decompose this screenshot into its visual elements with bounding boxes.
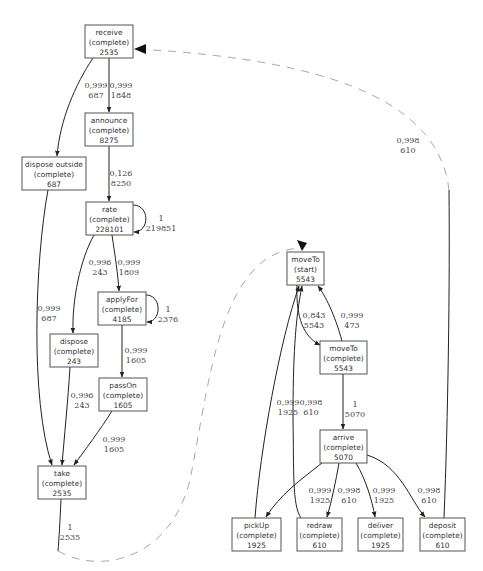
edge-dispose-outside-take[interactable] (37, 190, 52, 465)
edge-deposit-receive[interactable] (135, 49, 449, 190)
edge-dispose-take[interactable] (62, 367, 70, 465)
arrowhead-receive (134, 44, 146, 54)
nodes-layer: receive(complete)2535 announce(complete)… (22, 25, 465, 551)
edge-label-dispose-take: 0,996243 (71, 391, 94, 410)
node-redraw[interactable]: redraw(complete)610 (297, 518, 342, 551)
node-deposit[interactable]: deposit(complete)610 (420, 518, 465, 551)
node-moveTo-start[interactable]: moveTo(start)5543 (287, 252, 324, 285)
node-arrive[interactable]: arrive(complete)5070 (320, 430, 367, 463)
edge-rate-dispose[interactable] (73, 235, 94, 333)
edge-label-rate-applyFor: 0,9991809 (118, 258, 141, 277)
edge-label-take-moveTo-start: 12535 (60, 523, 80, 542)
edge-label-receive-dispose-outside: 0,999687 (85, 81, 108, 100)
edge-label-moveTo-complete-moveTo-start: 0,999473 (341, 311, 364, 330)
node-announce[interactable]: announce(complete)8275 (85, 113, 133, 146)
node-dispose-outside[interactable]: dispose outside(complete)687 (22, 157, 86, 190)
edge-applyFor-self[interactable] (146, 295, 158, 322)
edge-rate-self[interactable] (133, 205, 146, 232)
edge-label-arrive-redraw-1: 0,9991925 (309, 486, 332, 505)
edge-label-rate-dispose: 0,996243 (89, 258, 112, 277)
edge-label-arrive-redraw-2: 0,998610 (338, 486, 361, 505)
edge-label-arrive-deposit: 0,998610 (418, 486, 441, 505)
node-receive[interactable]: receive(complete)2535 (85, 25, 133, 58)
edge-take-moveTo-start[interactable] (58, 248, 302, 561)
edge-label-applyFor-passOn: 0,9991605 (125, 346, 148, 365)
edge-label-receive-announce: 0,9991848 (110, 81, 133, 100)
edge-label-passOn-take: 0,9991605 (103, 435, 126, 454)
node-take[interactable]: take(complete)2535 (38, 466, 86, 499)
edge-label-moveTo-start-moveTo-complete: 0,8435543 (303, 311, 326, 330)
node-pickUp[interactable]: pickUp(complete)1925 (232, 518, 281, 551)
node-applyFor[interactable]: applyFor(complete)4185 (98, 292, 146, 325)
edge-label-deposit-receive: 0,998610 (397, 136, 420, 155)
node-passOn[interactable]: passOn(complete)1605 (99, 378, 147, 411)
node-deliver[interactable]: deliver(complete)1925 (358, 518, 403, 551)
edge-deposit-tail (444, 190, 449, 518)
edge-label-redraw-moveTo-start: 0,998610 (300, 398, 323, 417)
edge-label-arrive-deliver: 0,9991925 (373, 486, 396, 505)
edge-label-pickUp-moveTo-start: 0,9991925 (277, 398, 300, 417)
edge-label-applyFor-self: 12376 (158, 305, 178, 324)
process-diagram: 0,999687 0,9991848 0,1268250 1219851 0,9… (0, 0, 483, 571)
edge-label-dispose-outside-take: 0,999687 (38, 304, 61, 323)
edge-take-tail (58, 499, 61, 551)
edge-label-announce-rate: 0,1268250 (110, 169, 133, 188)
node-rate[interactable]: rate(complete)228101 (86, 202, 133, 235)
node-moveTo-complete[interactable]: moveTo(complete)5543 (320, 341, 367, 374)
edge-label-moveTo-complete-arrive: 15070 (345, 400, 365, 419)
edge-label-rate-self: 1219851 (146, 214, 177, 233)
arrowhead-moveTo-start (297, 240, 307, 251)
node-dispose[interactable]: dispose(complete)243 (50, 334, 98, 367)
